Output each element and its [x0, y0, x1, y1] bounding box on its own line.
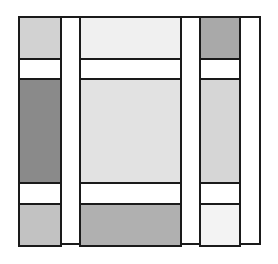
cell-r3c1: [18, 78, 62, 184]
cell-r1c1: [18, 16, 62, 60]
cell-r3c3: [79, 78, 182, 184]
cell-r1c3: [79, 16, 182, 60]
white-strip-strip-a: [60, 16, 81, 245]
cell-r4c3: [79, 182, 182, 205]
cell-r2c5: [199, 58, 241, 80]
cell-r5c1: [18, 203, 62, 247]
cell-r3c5: [199, 78, 241, 184]
white-strip-strip-c: [239, 16, 261, 245]
cell-r4c1: [18, 182, 62, 205]
cell-r2c1: [18, 58, 62, 80]
cell-r1c5: [199, 16, 241, 60]
white-strip-strip-b: [180, 16, 201, 245]
cell-r2c3: [79, 58, 182, 80]
cell-r4c5: [199, 182, 241, 205]
cell-r5c5: [199, 203, 241, 247]
cell-r5c3: [79, 203, 182, 247]
